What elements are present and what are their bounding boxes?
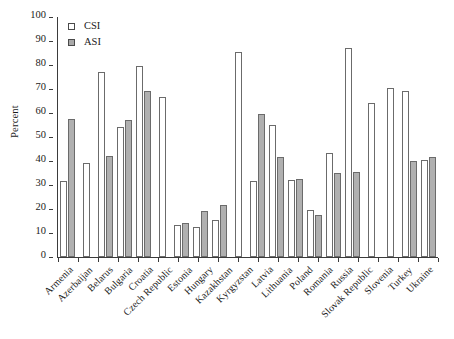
y-axis-tick-mark [49, 17, 53, 18]
y-axis-tick-mark [49, 137, 53, 138]
x-axis-tick-mark [98, 258, 99, 262]
legend-label-csi: CSI [84, 21, 100, 32]
x-axis-category-label: Azerbaijan [55, 264, 95, 304]
bar-csi [235, 52, 243, 257]
legend-swatch-csi-icon [68, 23, 75, 30]
x-axis-category-label: Kazakhstan [193, 264, 234, 305]
bar-csi [174, 225, 182, 257]
bar-csi [212, 220, 220, 257]
x-axis-category-label: Romania [301, 264, 335, 298]
bar-csi [387, 88, 395, 257]
bar-asi [106, 156, 114, 257]
y-axis-tick-mark [49, 113, 53, 114]
bar-csi [117, 127, 125, 257]
y-axis-tick-label: 70 [36, 81, 47, 92]
bar-asi [201, 211, 209, 257]
x-axis-category-label: Slovenia [362, 264, 395, 297]
y-axis-tick-label: 20 [36, 201, 47, 212]
bar-csi [402, 91, 410, 257]
bar-csi [421, 160, 429, 257]
bars-layer [58, 17, 438, 257]
bar-csi [250, 181, 258, 257]
y-axis-tick-label: 0 [41, 249, 46, 260]
x-axis-category-label: Belarus [85, 264, 115, 294]
bar-csi [136, 66, 144, 257]
x-axis-tick-mark [298, 258, 299, 262]
x-axis-tick-mark [418, 258, 419, 262]
legend-entry-asi: ASI [68, 35, 101, 49]
x-axis-tick-mark [338, 258, 339, 262]
y-axis-tick-mark [49, 257, 53, 258]
x-axis-category-label: Armenia [42, 264, 75, 297]
x-axis-category-label: Lithuania [259, 264, 295, 300]
bar-asi [277, 157, 285, 257]
y-axis-tick-label: 40 [36, 153, 47, 164]
bar-asi [296, 179, 304, 257]
legend-entry-csi: CSI [68, 19, 101, 33]
x-axis-category-label: Slovak Republic [319, 264, 375, 320]
x-axis-tick-mark [78, 258, 79, 262]
y-axis-tick-mark [49, 233, 53, 234]
x-axis-tick-mark [138, 258, 139, 262]
x-axis-tick-mark [258, 258, 259, 262]
x-axis-tick-mark [178, 258, 179, 262]
bar-csi [269, 125, 277, 257]
bar-asi [220, 205, 228, 257]
x-axis-category-label: Poland [287, 264, 315, 292]
x-axis-category-label: Ukraine [404, 264, 435, 295]
x-axis-line [57, 257, 438, 258]
bar-csi [193, 227, 201, 257]
x-axis-tick-mark [398, 258, 399, 262]
bar-chart: Percent 0102030405060708090100 ArmeniaAz… [0, 0, 454, 339]
x-axis-tick-mark [378, 258, 379, 262]
x-axis-tick-mark [218, 258, 219, 262]
bar-asi [315, 215, 323, 257]
x-axis-tick-mark [198, 258, 199, 262]
x-axis-category-label: Turkey [386, 264, 414, 292]
y-axis-tick-mark [49, 89, 53, 90]
bar-csi [60, 181, 68, 257]
x-axis-category-label: Bulgaria [102, 264, 135, 297]
bar-csi [288, 180, 296, 257]
y-axis-tick-mark [49, 65, 53, 66]
y-axis-tick-label: 60 [36, 105, 47, 116]
x-axis-tick-mark [278, 258, 279, 262]
bar-asi [410, 161, 418, 257]
x-axis-category-label: Czech Republic [121, 264, 175, 318]
x-axis-tick-mark [58, 258, 59, 262]
bar-csi [345, 48, 353, 257]
bar-asi [334, 173, 342, 257]
bar-csi [307, 210, 315, 257]
bar-csi [159, 97, 167, 257]
x-axis-tick-mark [358, 258, 359, 262]
y-axis-tick-mark [49, 161, 53, 162]
x-axis-category-label: Estonia [165, 264, 194, 293]
y-axis-tick-label: 50 [36, 129, 47, 140]
x-axis-category-label: Kyrgyzstan [214, 264, 255, 305]
y-axis-label: Percent [9, 82, 20, 162]
bar-asi [429, 157, 437, 257]
bar-asi [144, 91, 152, 257]
legend-label-asi: ASI [84, 37, 101, 48]
y-axis-tick-label: 90 [36, 33, 47, 44]
x-axis-category-label: Latvia [249, 264, 275, 290]
bar-csi [98, 72, 106, 257]
x-axis-tick-mark [158, 258, 159, 262]
bar-asi [125, 120, 133, 257]
bar-csi [83, 163, 91, 257]
x-axis-tick-mark [118, 258, 119, 262]
y-axis-tick-label: 100 [30, 9, 46, 20]
bar-csi [368, 103, 376, 257]
y-axis-tick-label: 80 [36, 57, 47, 68]
y-axis-tick-mark [49, 41, 53, 42]
bar-asi [68, 119, 76, 257]
y-axis-tick-label: 30 [36, 177, 47, 188]
x-axis-category-label: Russia [328, 264, 355, 291]
x-axis-category-label: Hungary [182, 264, 215, 297]
x-axis-tick-mark [318, 258, 319, 262]
bar-asi [258, 114, 266, 257]
y-axis-tick-mark [49, 185, 53, 186]
bar-asi [353, 172, 361, 257]
legend-swatch-asi-icon [68, 39, 75, 46]
y-axis-tick-mark [49, 209, 53, 210]
